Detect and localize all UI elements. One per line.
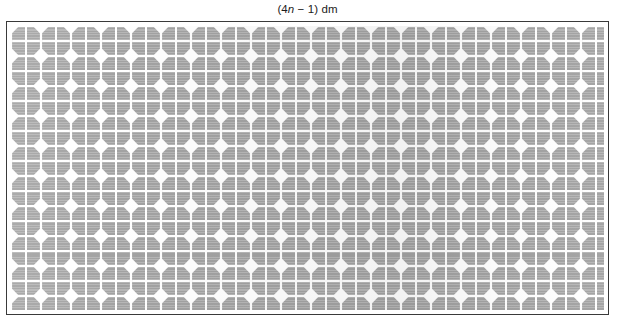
photovoltaic-cell [11,266,41,296]
photovoltaic-cell [11,116,41,146]
photovoltaic-cell-body [372,147,400,175]
photovoltaic-cell [161,56,191,86]
photovoltaic-cell-body [132,207,160,235]
photovoltaic-cell [221,206,251,236]
photovoltaic-cell [461,266,491,296]
photovoltaic-cell-body [402,207,430,235]
photovoltaic-cell [251,236,281,266]
photovoltaic-cell [221,86,251,116]
photovoltaic-cell [371,56,401,86]
photovoltaic-cell-body [132,297,160,310]
photovoltaic-cell-body [342,297,370,310]
photovoltaic-cell-body [312,57,340,85]
photovoltaic-cell-body [342,117,370,145]
photovoltaic-cell-body [282,267,310,295]
photovoltaic-cell-body [42,117,70,145]
photovoltaic-cell [461,176,491,206]
photovoltaic-cell-body [132,177,160,205]
photovoltaic-cell-body [72,27,100,55]
photovoltaic-cell [341,236,371,266]
photovoltaic-cell-body [222,177,250,205]
photovoltaic-cell [581,146,604,176]
photovoltaic-cell-body [462,57,490,85]
photovoltaic-cell-body [222,237,250,265]
photovoltaic-cell-body [402,57,430,85]
photovoltaic-cell-body [402,177,430,205]
photovoltaic-cell [101,56,131,86]
photovoltaic-cell [71,26,101,56]
photovoltaic-cell [101,236,131,266]
photovoltaic-cell [521,206,551,236]
photovoltaic-cell-body [162,297,190,310]
photovoltaic-cell-body [372,177,400,205]
photovoltaic-cell-body [312,117,340,145]
photovoltaic-cell-body [192,27,220,55]
photovoltaic-cell [341,116,371,146]
photovoltaic-cell [251,56,281,86]
photovoltaic-cell-body [582,117,604,145]
photovoltaic-cell [251,86,281,116]
photovoltaic-cell-body [582,27,604,55]
photovoltaic-cell-body [432,237,460,265]
photovoltaic-cell [281,236,311,266]
photovoltaic-cell-body [12,267,40,295]
photovoltaic-cell [41,56,71,86]
photovoltaic-cell [281,176,311,206]
photovoltaic-cell [161,26,191,56]
photovoltaic-cell-body [402,87,430,115]
photovoltaic-cell [11,206,41,236]
photovoltaic-cell [221,56,251,86]
photovoltaic-cell [41,116,71,146]
photovoltaic-cell-body [552,177,580,205]
photovoltaic-cell-body [582,297,604,310]
photovoltaic-cell [161,176,191,206]
photovoltaic-cell [491,296,521,310]
photovoltaic-cell [491,236,521,266]
photovoltaic-cell-body [582,147,604,175]
photovoltaic-cell [101,206,131,236]
photovoltaic-cell-body [342,177,370,205]
photovoltaic-cell [221,266,251,296]
photovoltaic-cell [431,296,461,310]
photovoltaic-cell-body [462,117,490,145]
photovoltaic-cell [101,296,131,310]
photovoltaic-cell [521,146,551,176]
photovoltaic-cell [131,56,161,86]
photovoltaic-cell-body [162,207,190,235]
photovoltaic-cell-body [252,297,280,310]
photovoltaic-cell [131,176,161,206]
photovoltaic-cell [71,176,101,206]
photovoltaic-cell [551,26,581,56]
photovoltaic-cell-body [582,87,604,115]
photovoltaic-cell-body [552,117,580,145]
photovoltaic-cell [521,116,551,146]
photovoltaic-cell-body [462,177,490,205]
photovoltaic-cell-body [12,177,40,205]
photovoltaic-cell [521,296,551,310]
photovoltaic-cell-body [252,57,280,85]
photovoltaic-cell-body [432,177,460,205]
photovoltaic-cell [371,236,401,266]
photovoltaic-cell-body [222,147,250,175]
photovoltaic-cell-body [462,207,490,235]
photovoltaic-cell-body [312,267,340,295]
photovoltaic-cell [551,56,581,86]
photovoltaic-cell [341,176,371,206]
photovoltaic-cell-body [132,87,160,115]
photovoltaic-cell [41,236,71,266]
photovoltaic-cell [551,116,581,146]
photovoltaic-cell [311,116,341,146]
photovoltaic-cell-body [102,147,130,175]
photovoltaic-cell-body [402,27,430,55]
caption-prefix: (4 [277,3,287,15]
photovoltaic-cell-body [42,207,70,235]
photovoltaic-cell-body [12,297,40,310]
photovoltaic-cell [101,266,131,296]
photovoltaic-cell [521,176,551,206]
photovoltaic-cell [251,266,281,296]
photovoltaic-cell-body [12,57,40,85]
photovoltaic-cell [581,206,604,236]
photovoltaic-cell [431,26,461,56]
photovoltaic-cell-body [42,57,70,85]
photovoltaic-cell [491,176,521,206]
